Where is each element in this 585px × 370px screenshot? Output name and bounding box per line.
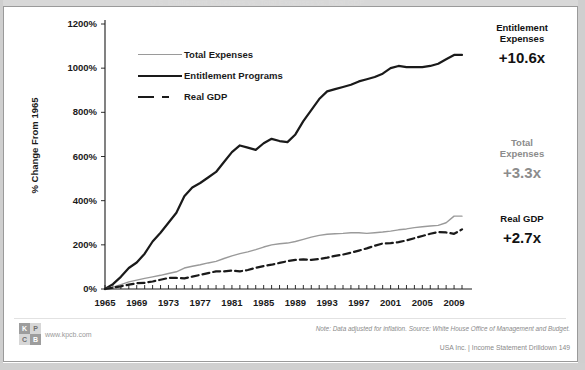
annotation-real-gdp: Real GDP +2.7x [472,213,572,248]
chart-legend: Total Expenses Entitlement Programs Real… [138,44,283,107]
y-tick-label-1200: 1200% [47,18,97,29]
y-tick-label-600: 600% [47,151,97,162]
annotation-gdp-name-line1: Real GDP [472,213,572,224]
annotation-total-name-line1: Total [472,137,572,148]
y-tick-label-200: 200% [47,239,97,250]
logo-cell-c: C [19,334,30,345]
logo-cell-k: K [19,323,30,334]
annotation-entitlement-expenses: Entitlement Expenses +10.6x [472,22,572,68]
legend-label-entitlement-programs: Entitlement Programs [184,70,283,81]
logo-cell-b: B [30,334,41,345]
annotation-entitlement-name-line1: Entitlement [472,22,572,33]
footer-divider [14,318,566,319]
slide-root: U.S. Entitlement Expenses vs. Total Expe… [0,0,585,370]
kpcb-logo-icon: K P C B [19,323,41,345]
logo-cell-p: P [30,323,41,334]
annotation-entitlement-value: +10.6x [472,48,572,68]
legend-label-total-expenses: Total Expenses [184,49,253,60]
legend-swatch-total-expenses [138,49,182,61]
annotation-gdp-value: +2.7x [472,228,572,248]
legend-label-real-gdp: Real GDP [184,91,227,102]
kpcb-url: www.kpcb.com [45,331,92,338]
x-tick-label-2009: 2009 [434,297,474,308]
source-note: Note: Data adjusted for inflation. Sourc… [225,325,570,332]
legend-item-entitlement-programs: Entitlement Programs [138,65,283,86]
annotation-entitlement-name-line2: Expenses [472,33,572,44]
legend-item-total-expenses: Total Expenses [138,44,283,65]
legend-item-real-gdp: Real GDP [138,86,283,107]
annotation-total-name-line2: Expenses [472,148,572,159]
page-footer: USA Inc. | Income Statement Drilldown 14… [330,344,570,351]
legend-swatch-real-gdp [138,91,182,103]
annotation-total-expenses: Total Expenses +3.3x [472,137,572,183]
series-line-total-expenses [105,216,462,289]
y-tick-label-1000: 1000% [47,62,97,73]
y-axis-title: % Change From 1965 [29,86,40,206]
legend-swatch-entitlement-programs [138,70,182,82]
series-line-real-gdp [105,229,462,289]
annotation-total-value: +3.3x [472,163,572,183]
y-tick-label-400: 400% [47,195,97,206]
y-tick-label-0: 0% [47,283,97,294]
y-tick-label-800: 800% [47,106,97,117]
